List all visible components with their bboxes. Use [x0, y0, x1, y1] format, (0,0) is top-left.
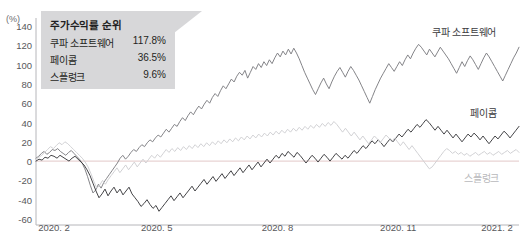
legend-series-name: 쿠파 소프트웨어 [50, 35, 114, 50]
legend-series-name: 페이콤 [50, 52, 76, 67]
legend-series-value: 9.6% [143, 69, 166, 80]
legend-row: 쿠파 소프트웨어117.8% [50, 35, 168, 50]
y-tick-label: -40 [6, 194, 32, 205]
y-tick-label: -20 [6, 175, 32, 186]
x-tick-label: 2020. 11 [380, 222, 416, 233]
y-tick-label: 60 [6, 98, 32, 109]
legend-title: 주가수익률 순위 [50, 17, 121, 32]
legend-series-value: 117.8% [133, 35, 166, 46]
series-inline-label: 페이콤 [470, 105, 496, 120]
x-tick-label: 2020. 8 [262, 222, 294, 233]
y-tick-label: 80 [6, 78, 32, 89]
y-axis-labels: 140120100806040200-20-40-60 [2, 0, 32, 247]
y-tick-label: 0 [6, 156, 32, 167]
y-tick-label: 20 [6, 136, 32, 147]
y-tick-label: 100 [6, 59, 32, 70]
y-tick-label: 40 [6, 117, 32, 128]
x-tick-label: 2020. 5 [141, 222, 173, 233]
legend-series-value: 36.5% [138, 52, 166, 63]
x-tick-label: 2021. 2 [481, 222, 513, 233]
x-axis-labels: 2020. 22020. 52020. 82020. 112021. 2 [0, 222, 521, 242]
legend-series-name: 스플렁크 [50, 69, 85, 84]
series-inline-label: 스플렁크 [464, 170, 499, 185]
series-line [36, 120, 519, 212]
legend-row: 스플렁크9.6% [50, 69, 168, 84]
legend-row: 페이콤36.5% [50, 52, 168, 67]
chart-root: (%) 140120100806040200-20-40-60 2020. 22… [0, 0, 521, 247]
y-tick-label: 120 [6, 40, 32, 51]
y-tick-label: 140 [6, 21, 32, 32]
x-tick-label: 2020. 2 [38, 222, 70, 233]
series-inline-label: 쿠파 소프트웨어 [432, 24, 496, 39]
legend-callout-tail [174, 11, 202, 33]
